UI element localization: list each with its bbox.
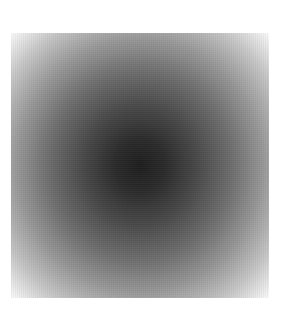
canvas <box>0 0 287 311</box>
radial-gradient-square <box>11 33 269 298</box>
